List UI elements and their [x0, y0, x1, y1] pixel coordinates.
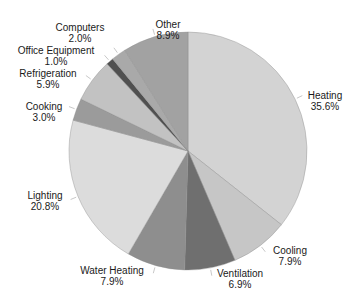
leader-line [114, 48, 118, 53]
leader-line [86, 76, 91, 80]
slice-label-name: Other [155, 19, 180, 30]
slice-label: Office Equipment1.0% [18, 45, 95, 67]
slice-label-name: Heating [308, 90, 342, 101]
slice-label: Lighting20.8% [27, 190, 62, 212]
slice-label-name: Lighting [27, 190, 62, 201]
leader-line [153, 29, 155, 35]
slice-label-value: 20.8% [27, 201, 62, 212]
slice-label-name: Ventilation [217, 268, 263, 279]
slice-label-value: 1.0% [18, 56, 95, 67]
slice-label: Cooling7.9% [273, 245, 307, 267]
slice-label-value: 3.0% [26, 112, 63, 123]
slice-label-name: Office Equipment [18, 45, 95, 56]
slice-label: Other8.9% [155, 19, 180, 41]
slice-label-value: 35.6% [308, 101, 342, 112]
leader-line [211, 270, 212, 276]
slice-label-name: Refrigeration [19, 68, 76, 79]
slice-label-name: Cooking [26, 101, 63, 112]
slice-label-name: Computers [56, 22, 105, 33]
slice-label: Heating35.6% [308, 90, 342, 112]
slice-label-value: 7.9% [273, 256, 307, 267]
leader-line [71, 197, 77, 199]
leader-line [105, 55, 109, 60]
leader-line [297, 96, 302, 99]
slice-label: Cooking3.0% [26, 101, 63, 123]
leader-line [262, 247, 266, 252]
slice-label-value: 5.9% [19, 79, 76, 90]
slice-label: Computers2.0% [56, 22, 105, 44]
slice-label: Water Heating7.9% [80, 265, 144, 287]
slice-label: Ventilation6.9% [217, 268, 263, 290]
leader-line [69, 107, 75, 109]
leader-line [153, 267, 155, 273]
slice-label-name: Water Heating [80, 265, 144, 276]
slice-label-value: 7.9% [80, 276, 144, 287]
slice-label-value: 8.9% [155, 30, 180, 41]
slice-label-value: 6.9% [217, 279, 263, 290]
slice-label-name: Cooling [273, 245, 307, 256]
slice-label: Refrigeration5.9% [19, 68, 76, 90]
slice-label-value: 2.0% [56, 33, 105, 44]
